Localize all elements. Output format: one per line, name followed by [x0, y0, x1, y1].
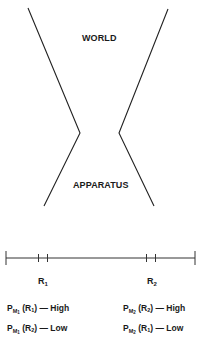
- prob-symbol: PM1: [7, 323, 20, 333]
- region-axis: [6, 251, 195, 265]
- prob-m2-r1: PM2 (R1) — Low: [123, 323, 183, 335]
- prob-value: High: [166, 303, 185, 313]
- prob-m1-r1: PM1 (R1) — High: [7, 303, 69, 315]
- prob-symbol: PM2: [123, 323, 136, 333]
- prob-value: High: [50, 303, 69, 313]
- apparatus-label: APPARATUS: [73, 180, 129, 190]
- funnel-diagram: [0, 0, 204, 348]
- prob-value: Low: [166, 323, 183, 333]
- world-label: WORLD: [82, 33, 117, 43]
- prob-symbol: PM2: [123, 303, 136, 313]
- prob-symbol: PM1: [7, 303, 20, 313]
- prob-value: Low: [50, 323, 67, 333]
- left-boundary-line: [28, 8, 80, 206]
- prob-m1-r2: PM1 (R2) — Low: [7, 323, 67, 335]
- prob-m2-r2: PM2 (R2) — High: [123, 303, 185, 315]
- region-r2-label: R2: [147, 276, 157, 287]
- right-boundary-line: [119, 9, 168, 206]
- region-r1-label: R1: [38, 276, 48, 287]
